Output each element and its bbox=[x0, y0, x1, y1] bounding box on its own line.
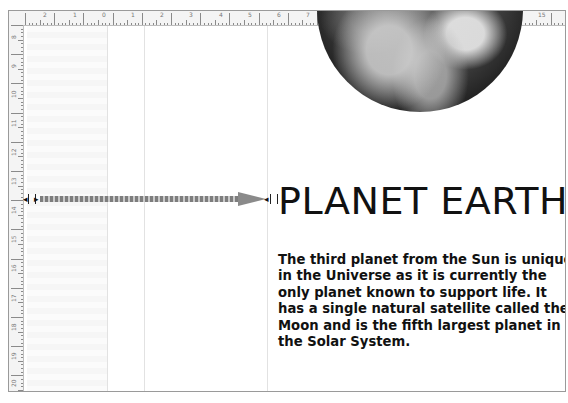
resize-left-icon: ◂ bbox=[264, 193, 269, 205]
ruler-tick bbox=[43, 23, 44, 25]
faint-background-texture bbox=[27, 26, 107, 391]
guide-line bbox=[107, 26, 108, 391]
ruler-tick bbox=[21, 178, 23, 179]
ruler-tick bbox=[240, 23, 241, 25]
ruler-tick bbox=[21, 379, 23, 380]
ruler-tick bbox=[11, 259, 23, 260]
earth-image[interactable] bbox=[317, 10, 523, 112]
ruler-tick bbox=[21, 145, 23, 146]
ruler-label: 12 bbox=[10, 148, 17, 156]
slide-canvas[interactable]: ◂ ▸ ◂ PLANET EARTH The third planet from… bbox=[24, 26, 565, 391]
ruler-label: 2 bbox=[43, 11, 47, 18]
motion-path-arrow[interactable]: ◂ ▸ ◂ bbox=[26, 192, 281, 206]
ruler-tick bbox=[532, 23, 533, 25]
ruler-tick bbox=[18, 332, 23, 333]
ruler-tick bbox=[21, 350, 23, 351]
ruler-tick bbox=[21, 211, 23, 212]
ruler-tick bbox=[21, 266, 23, 267]
ruler-tick bbox=[109, 23, 110, 25]
ruler-label: 0 bbox=[102, 11, 106, 18]
ruler-tick bbox=[153, 23, 154, 25]
ruler-tick bbox=[21, 164, 23, 165]
ruler-tick bbox=[21, 281, 23, 282]
ruler-tick bbox=[251, 23, 252, 25]
ruler-tick bbox=[21, 153, 23, 154]
guide-line bbox=[144, 26, 145, 391]
ruler-tick bbox=[18, 273, 23, 274]
ruler-label: 4 bbox=[219, 11, 223, 18]
ruler-tick bbox=[21, 233, 23, 234]
end-handle[interactable] bbox=[270, 194, 278, 204]
ruler-tick bbox=[21, 167, 23, 168]
ruler-tick bbox=[21, 240, 23, 241]
slide-title[interactable]: PLANET EARTH bbox=[278, 179, 566, 223]
ruler-label: 5 bbox=[248, 11, 252, 18]
ruler-tick bbox=[281, 23, 282, 25]
ruler-tick bbox=[299, 23, 300, 25]
ruler-tick bbox=[21, 270, 23, 271]
ruler-tick bbox=[11, 83, 23, 84]
ruler-label: 15 bbox=[538, 11, 546, 18]
ruler-tick bbox=[21, 339, 23, 340]
ruler-label: 20 bbox=[10, 379, 17, 387]
ruler-tick bbox=[229, 13, 230, 25]
ruler-tick bbox=[21, 343, 23, 344]
ruler-tick bbox=[306, 23, 307, 25]
ruler-tick bbox=[91, 23, 92, 25]
ruler-tick bbox=[543, 23, 544, 25]
ruler-label: 1 bbox=[131, 11, 135, 18]
ruler-tick bbox=[58, 23, 59, 25]
ruler-tick bbox=[259, 13, 260, 25]
ruler-tick bbox=[21, 248, 23, 249]
ruler-tick bbox=[87, 23, 88, 25]
ruler-tick bbox=[62, 23, 63, 25]
ruler-tick bbox=[562, 23, 563, 25]
vertical-ruler[interactable]: 8 9 10 11 12 13 14 15 16 17 18 19 20 bbox=[9, 25, 24, 391]
resize-left-icon: ◂ bbox=[23, 193, 28, 205]
ruler-tick bbox=[21, 222, 23, 223]
ruler-tick bbox=[156, 20, 157, 25]
ruler-tick bbox=[21, 291, 23, 292]
ruler-tick bbox=[11, 142, 23, 143]
ruler-label: 3 bbox=[189, 11, 193, 18]
ruler-tick bbox=[21, 58, 23, 59]
ruler-tick bbox=[291, 23, 292, 25]
ruler-tick bbox=[11, 346, 23, 347]
ruler-tick bbox=[237, 23, 238, 25]
slide-editor-frame: 2 1 0 1 2 3 4 5 6 7 8 9 10 11 12 13 14 1… bbox=[8, 10, 566, 392]
ruler-tick bbox=[21, 135, 23, 136]
ruler-tick bbox=[21, 189, 23, 190]
ruler-tick bbox=[21, 124, 23, 125]
ruler-tick bbox=[18, 127, 23, 128]
ruler-tick bbox=[21, 208, 23, 209]
ruler-tick bbox=[21, 87, 23, 88]
ruler-tick bbox=[21, 105, 23, 106]
ruler-tick bbox=[277, 23, 278, 25]
ruler-label: 7 bbox=[306, 11, 310, 18]
ruler-tick bbox=[21, 357, 23, 358]
ruler-tick bbox=[21, 62, 23, 63]
ruler-tick bbox=[222, 23, 223, 25]
ruler-tick bbox=[204, 23, 205, 25]
ruler-tick bbox=[21, 295, 23, 296]
ruler-tick bbox=[21, 368, 23, 369]
ruler-tick bbox=[21, 310, 23, 311]
ruler-tick bbox=[36, 23, 37, 25]
ruler-tick bbox=[21, 354, 23, 355]
ruler-tick bbox=[273, 20, 274, 25]
ruler-tick bbox=[21, 284, 23, 285]
ruler-tick bbox=[18, 302, 23, 303]
ruler-label: 11 bbox=[10, 119, 17, 127]
ruler-tick bbox=[536, 20, 537, 25]
ruler-tick bbox=[83, 13, 84, 25]
ruler-tick bbox=[25, 13, 26, 25]
ruler-tick bbox=[270, 23, 271, 25]
ruler-tick bbox=[21, 262, 23, 263]
ruler-tick bbox=[98, 20, 99, 25]
ruler-tick bbox=[21, 29, 23, 30]
ruler-tick bbox=[233, 23, 234, 25]
ruler-tick bbox=[182, 23, 183, 25]
ruler-tick bbox=[18, 40, 23, 41]
ruler-tick bbox=[131, 23, 132, 25]
slide-body-text[interactable]: The third planet from the Sun is unique … bbox=[278, 252, 566, 350]
